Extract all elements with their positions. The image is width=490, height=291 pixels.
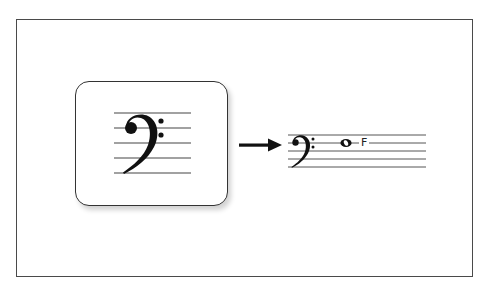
note-label-f: F bbox=[359, 136, 369, 149]
bass-clef-icon-small bbox=[291, 135, 314, 167]
arrow-right-icon bbox=[239, 139, 282, 152]
whole-note-icon bbox=[340, 139, 351, 147]
diagram-graphics bbox=[0, 0, 490, 291]
bass-clef-icon-large bbox=[123, 114, 164, 174]
